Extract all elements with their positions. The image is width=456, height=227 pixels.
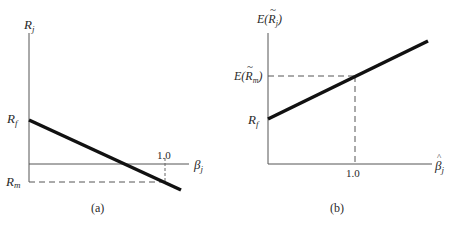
rf-label: Rf: [6, 111, 19, 128]
rf-label: Rf: [247, 112, 260, 129]
panel-a: Rj Rf Rm 1.0 βj (a): [5, 17, 203, 215]
rm-label: Rm: [5, 174, 21, 190]
panel-caption: (a): [91, 201, 104, 215]
figure: Rj Rf Rm 1.0 βj (a) E(Rj) ~ E(Rm) ~ Rf 1…: [0, 0, 456, 227]
y-axis-label: E(Rj): [256, 12, 282, 28]
panel-b: E(Rj) ~ E(Rm) ~ Rf 1.0 βj ^ (b): [233, 3, 444, 215]
tick-label: 1.0: [346, 167, 360, 179]
tilde-y: ~: [270, 3, 276, 15]
sml-line-b: [268, 41, 428, 119]
y-axis-label: Rj: [23, 17, 35, 34]
tick-label: 1.0: [157, 149, 171, 161]
panel-caption: (b): [330, 201, 344, 215]
tilde-erm: ~: [247, 60, 253, 72]
x-axis-label: βj: [193, 157, 203, 174]
